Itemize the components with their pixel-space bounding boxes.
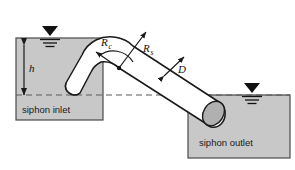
siphon-radius-subscript: s xyxy=(151,48,154,57)
water-triangle-icon xyxy=(244,83,260,93)
water-triangle-icon xyxy=(42,26,58,36)
siphon-diagram-figure: h R c R s D siphon inlet siphon outlet xyxy=(0,0,295,170)
reservoir-outlet-label: siphon outlet xyxy=(199,137,253,148)
pipe-diameter-label: D xyxy=(177,63,186,75)
reservoir-inlet-label: siphon inlet xyxy=(22,104,70,115)
outlet-water-level-marker xyxy=(242,83,262,104)
bend-radius-label: R xyxy=(100,36,108,48)
diagram-canvas: h R c R s D siphon inlet siphon outlet xyxy=(0,0,295,170)
inlet-water-level-marker xyxy=(40,26,60,47)
siphon-radius-label: R xyxy=(142,42,150,54)
head-dimension-label: h xyxy=(29,62,35,74)
